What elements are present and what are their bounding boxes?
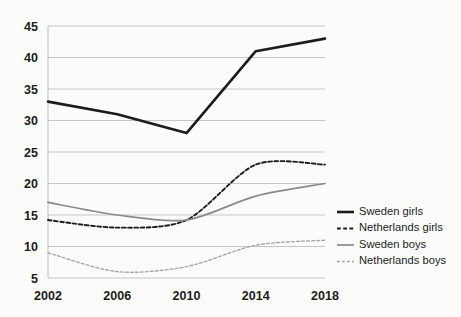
y-tick-label-45: 45 xyxy=(24,20,38,34)
y-tick-label-5: 5 xyxy=(31,272,38,286)
y-tick-label-20: 20 xyxy=(24,177,38,191)
y-axis-tick-labels: 51015202530354045 xyxy=(24,20,38,286)
x-tick-label-2014: 2014 xyxy=(242,289,270,303)
data-series-group xyxy=(48,39,325,273)
gridlines xyxy=(48,26,325,278)
legend-label-netherlands-boys: Netherlands boys xyxy=(359,254,446,266)
legend-label-sweden-boys: Sweden boys xyxy=(359,238,427,250)
series-line-netherlands-boys xyxy=(48,240,325,272)
y-tick-label-40: 40 xyxy=(24,51,38,65)
chart-canvas: 51015202530354045 20022006201020142018 S… xyxy=(0,0,461,317)
x-tick-label-2002: 2002 xyxy=(34,289,62,303)
x-tick-label-2018: 2018 xyxy=(311,289,339,303)
y-tick-label-10: 10 xyxy=(24,240,38,254)
chart-legend: Sweden girlsNetherlands girlsSweden boys… xyxy=(337,205,446,267)
y-tick-label-25: 25 xyxy=(24,146,38,160)
y-tick-label-30: 30 xyxy=(24,114,38,128)
y-tick-label-15: 15 xyxy=(24,209,38,223)
x-tick-label-2006: 2006 xyxy=(103,289,131,303)
series-line-sweden-girls xyxy=(48,39,325,134)
legend-label-sweden-girls: Sweden girls xyxy=(359,205,423,217)
x-tick-label-2010: 2010 xyxy=(173,289,201,303)
x-axis-tick-labels: 20022006201020142018 xyxy=(34,289,339,303)
series-line-netherlands-girls xyxy=(48,161,325,228)
legend-label-netherlands-girls: Netherlands girls xyxy=(359,221,443,233)
y-tick-label-35: 35 xyxy=(24,83,38,97)
line-chart: 51015202530354045 20022006201020142018 S… xyxy=(0,0,461,317)
